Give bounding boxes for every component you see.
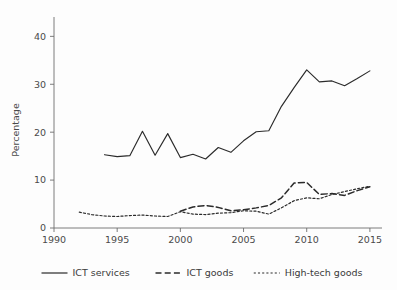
y-axis-title: Percentage (10, 103, 21, 157)
x-tick-label: 2000 (168, 234, 192, 245)
legend-label: ICT services (73, 267, 130, 278)
legend-label: ICT goods (187, 267, 234, 278)
x-axis: 199019952000200520102015 (42, 228, 382, 245)
y-tick-label: 0 (40, 222, 46, 233)
legend-item-high-tech-goods[interactable]: High-tech goods (254, 267, 363, 278)
x-tick-label: 2015 (358, 234, 382, 245)
series-line-ict-services (105, 70, 370, 159)
legend-item-ict-services[interactable]: ICT services (42, 267, 130, 278)
chart-figure: 010203040 199019952000200520102015 ICT s… (0, 0, 397, 290)
x-tick-label: 2005 (231, 234, 255, 245)
x-tick-label: 1995 (105, 234, 129, 245)
y-tick-label: 10 (34, 174, 46, 185)
chart-legend: ICT servicesICT goodsHigh-tech goods (42, 267, 363, 278)
line-chart: 010203040 199019952000200520102015 ICT s… (0, 0, 397, 290)
y-tick-label: 40 (34, 31, 46, 42)
x-tick-label: 2010 (295, 234, 319, 245)
y-axis: 010203040 (34, 17, 54, 233)
y-tick-label: 30 (34, 79, 46, 90)
series-line-ict-goods (180, 182, 370, 211)
x-tick-label: 1990 (42, 234, 66, 245)
series-layer (79, 70, 370, 217)
y-tick-label: 20 (34, 127, 46, 138)
legend-item-ict-goods[interactable]: ICT goods (156, 267, 234, 278)
legend-label: High-tech goods (285, 267, 363, 278)
series-line-high-tech-goods (79, 186, 370, 216)
